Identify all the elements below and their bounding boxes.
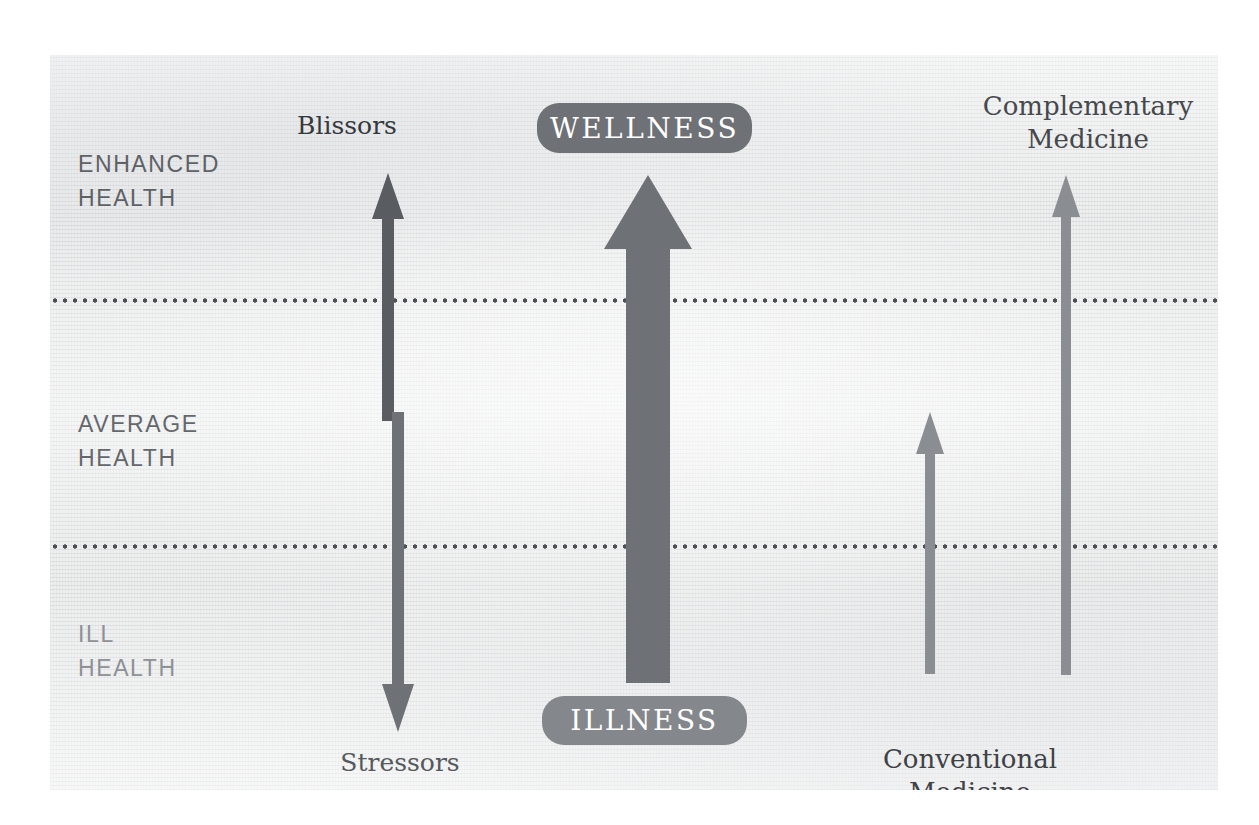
illness-badge: ILLNESS	[542, 696, 747, 745]
blissors-arrow-icon	[360, 173, 420, 421]
stressors-label: Stressors	[300, 747, 500, 778]
blissors-label: Blissors	[252, 110, 442, 141]
conventional-medicine-arrow-icon	[902, 412, 962, 674]
conventional-medicine-label: Conventional Medicine	[840, 743, 1100, 790]
complementary-medicine-label: Complementary Medicine	[958, 90, 1218, 156]
diagram-stage: ENHANCED HEALTH AVERAGE HEALTH ILL HEALT…	[0, 0, 1259, 825]
wellness-badge: WELLNESS	[537, 103, 752, 153]
zone-label-ill-health: ILL HEALTH	[78, 617, 177, 685]
complementary-medicine-arrow-icon	[1038, 175, 1098, 675]
zone-label-enhanced-health: ENHANCED HEALTH	[78, 147, 220, 215]
stressors-arrow-icon	[370, 412, 430, 732]
figure-paper-region: ENHANCED HEALTH AVERAGE HEALTH ILL HEALT…	[50, 55, 1218, 790]
illness-to-wellness-arrow-icon	[598, 173, 698, 683]
zone-label-average-health: AVERAGE HEALTH	[78, 407, 199, 475]
